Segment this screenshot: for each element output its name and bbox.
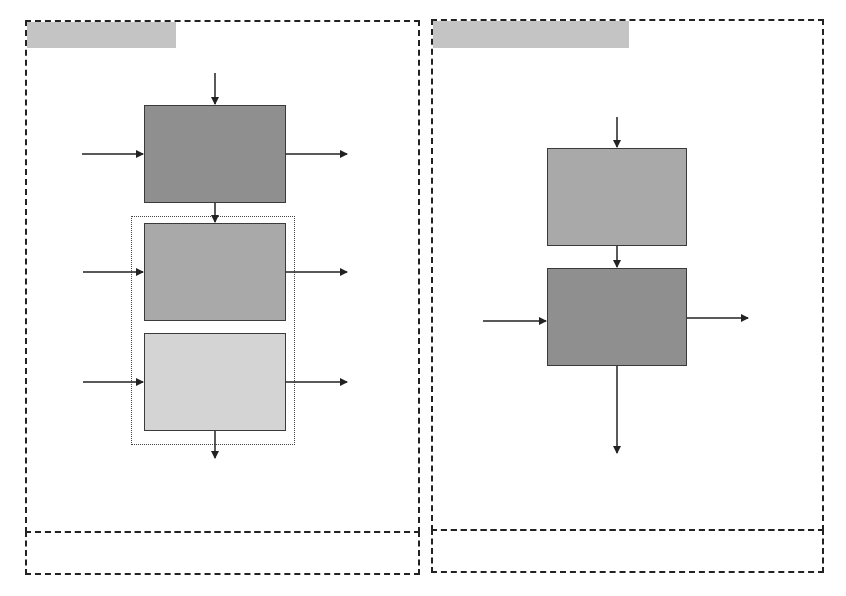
connector-arrows bbox=[0, 0, 846, 596]
